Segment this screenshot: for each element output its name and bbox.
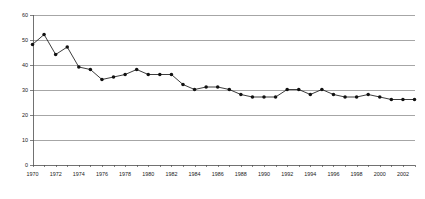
data-point-1989 (251, 95, 255, 99)
x-tick-label-1994: 1994 (304, 171, 316, 177)
data-point-1975 (89, 68, 93, 72)
x-tick-label-1984: 1984 (189, 171, 201, 177)
data-point-1973 (65, 45, 69, 49)
data-point-2002 (401, 98, 405, 102)
data-point-1991 (274, 95, 278, 99)
x-tick-label-1980: 1980 (142, 171, 154, 177)
x-tick-label-2002: 2002 (397, 171, 409, 177)
y-tick-label-20: 20 (22, 112, 28, 118)
x-tick-label-1982: 1982 (165, 171, 177, 177)
data-point-1988 (239, 93, 243, 97)
y-tick-label-60: 60 (22, 12, 28, 18)
data-point-1970 (31, 43, 35, 47)
data-point-1985 (204, 85, 208, 89)
x-tick-label-2000: 2000 (374, 171, 386, 177)
data-point-1984 (193, 88, 197, 92)
x-tick-label-1996: 1996 (327, 171, 339, 177)
data-point-1977 (112, 75, 116, 79)
y-tick-label-40: 40 (22, 62, 28, 68)
data-point-1996 (332, 93, 336, 97)
data-point-1999 (366, 93, 370, 97)
data-point-1980 (147, 73, 151, 77)
data-point-1971 (42, 33, 46, 37)
data-point-1995 (320, 88, 324, 92)
data-point-1974 (77, 65, 81, 69)
data-point-1983 (181, 83, 185, 87)
data-point-1978 (123, 73, 127, 77)
chart-container: 0102030405060 19701972197419761978198019… (0, 0, 425, 199)
data-point-1993 (297, 88, 301, 92)
data-point-1981 (158, 73, 162, 77)
data-point-1979 (135, 68, 139, 72)
y-tick-label-10: 10 (22, 137, 28, 143)
data-point-2000 (378, 95, 382, 99)
data-point-1994 (309, 93, 313, 97)
x-tick-label-1978: 1978 (119, 171, 131, 177)
x-tick-label-1974: 1974 (73, 171, 85, 177)
data-point-1987 (228, 88, 232, 92)
data-point-1986 (216, 85, 220, 89)
x-tick-label-1972: 1972 (50, 171, 62, 177)
data-point-1976 (100, 78, 104, 82)
x-tick-label-1988: 1988 (235, 171, 247, 177)
y-tick-label-0: 0 (25, 162, 28, 168)
x-tick-label-1970: 1970 (27, 171, 39, 177)
x-tick-label-1992: 1992 (281, 171, 293, 177)
data-point-2001 (390, 98, 394, 102)
y-tick-label-50: 50 (22, 37, 28, 43)
y-tick-label-30: 30 (22, 87, 28, 93)
data-point-1982 (170, 73, 174, 77)
line-chart: 0102030405060 19701972197419761978198019… (0, 0, 425, 199)
data-point-1997 (343, 95, 347, 99)
data-point-1998 (355, 95, 359, 99)
x-tick-label-1998: 1998 (351, 171, 363, 177)
plot-background (0, 0, 425, 199)
data-point-1992 (285, 88, 289, 92)
data-point-1990 (262, 95, 266, 99)
x-tick-label-1986: 1986 (212, 171, 224, 177)
data-point-2003 (413, 98, 417, 102)
x-axis-tick-labels: 1970197219741976197819801982198419861988… (27, 171, 409, 177)
x-tick-label-1990: 1990 (258, 171, 270, 177)
x-tick-label-1976: 1976 (96, 171, 108, 177)
data-point-1972 (54, 53, 58, 57)
